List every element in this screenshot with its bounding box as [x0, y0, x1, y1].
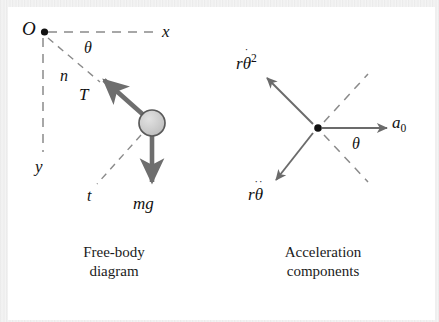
- caption-acceleration-components: Acceleration components: [228, 243, 418, 281]
- a0-base: a: [392, 113, 401, 132]
- caption-free-body-diagram: Free-body diagram: [24, 243, 204, 281]
- weight-label: mg: [133, 195, 154, 212]
- normal-accel-theta-with-dot: θ˙: [243, 55, 251, 72]
- axis-t-label: t: [87, 188, 91, 204]
- origin-label: O: [22, 19, 36, 38]
- normal-accel-arrow: [267, 78, 313, 124]
- figure-root: O x y n θ T t mg θ a0 rθ˙2 rθ˙˙ Free-bod…: [0, 0, 439, 322]
- tension-label: T: [79, 86, 88, 103]
- normal-accel-r: r: [236, 54, 243, 73]
- particle-ball: [139, 110, 165, 136]
- center-dot: [314, 124, 322, 132]
- dashed-axis-lower: [324, 135, 368, 182]
- free-body-diagram-group: [41, 28, 165, 184]
- tangential-accel-theta-with-dots: θ˙˙: [255, 186, 263, 203]
- axis-n-dashed: [48, 38, 100, 82]
- acceleration-components-group: [267, 74, 387, 182]
- axis-y-label: y: [35, 158, 43, 175]
- axis-t-dashed: [97, 135, 141, 184]
- a0-label: a0: [392, 114, 406, 135]
- angle-theta-label-acceleration: θ: [352, 136, 360, 152]
- tangential-accel-arrow: [276, 133, 313, 180]
- dashed-axis-upper: [324, 74, 368, 122]
- axis-x-label: x: [162, 23, 170, 40]
- tangential-accel-label: rθ˙˙: [248, 186, 263, 203]
- origin-dot: [41, 28, 48, 35]
- normal-accel-label: rθ˙2: [236, 53, 257, 72]
- normal-accel-dot: ˙: [245, 48, 249, 60]
- angle-theta-label-free-body: θ: [84, 40, 92, 56]
- tension-arrow: [104, 80, 148, 119]
- a0-subscript: 0: [401, 122, 407, 135]
- tangential-accel-dots: ˙˙: [254, 180, 263, 192]
- normal-accel-exponent: 2: [251, 52, 257, 65]
- axis-n-label: n: [60, 68, 68, 84]
